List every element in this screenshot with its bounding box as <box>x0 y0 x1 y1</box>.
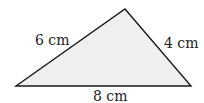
right-side-label: 4 cm <box>164 35 198 51</box>
left-side-label: 6 cm <box>35 32 69 48</box>
base-label: 8 cm <box>93 88 127 103</box>
triangle-diagram: 6 cm 4 cm 8 cm <box>0 0 204 103</box>
